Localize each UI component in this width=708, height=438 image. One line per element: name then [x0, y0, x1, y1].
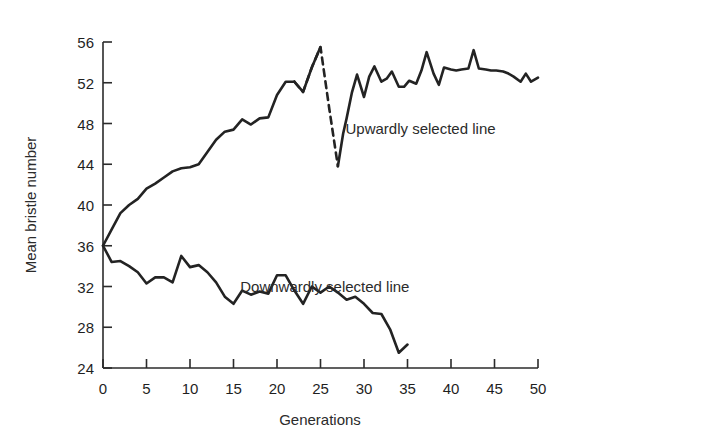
y-tick-label: 48 [77, 116, 94, 133]
y-tick-label: 56 [77, 34, 94, 51]
y-tick-label: 52 [77, 75, 94, 92]
y-tick-label: 28 [77, 319, 94, 336]
series-line [103, 246, 408, 353]
x-tick-label: 50 [530, 380, 547, 397]
y-axis-ticks: 242832364044485256 [77, 34, 112, 377]
chart-figure: 242832364044485256 05101520253035404550 … [0, 0, 708, 438]
y-tick-label: 40 [77, 197, 94, 214]
series-line [294, 47, 338, 166]
chart-axes [103, 42, 538, 368]
y-tick-label: 32 [77, 279, 94, 296]
x-tick-label: 0 [99, 380, 107, 397]
series-annotation-label: Downwardly selected line [240, 278, 409, 295]
y-tick-label: 36 [77, 238, 94, 255]
x-tick-label: 35 [399, 380, 416, 397]
y-tick-label: 44 [77, 156, 94, 173]
x-tick-label: 40 [443, 380, 460, 397]
y-axis-title: Mean bristle number [22, 137, 39, 274]
chart-series-group [103, 47, 538, 353]
series-line [294, 47, 320, 92]
x-tick-label: 45 [486, 380, 503, 397]
series-annotation-label: Upwardly selected line [346, 120, 496, 137]
series-line [103, 82, 294, 246]
x-axis-ticks: 05101520253035404550 [99, 359, 547, 397]
x-tick-label: 10 [182, 380, 199, 397]
x-tick-label: 15 [225, 380, 242, 397]
x-tick-label: 30 [356, 380, 373, 397]
x-tick-label: 25 [312, 380, 329, 397]
series-line [338, 50, 538, 166]
y-tick-label: 24 [77, 360, 94, 377]
x-tick-label: 5 [142, 380, 150, 397]
x-axis-title: Generations [279, 411, 361, 428]
series-annotations: Upwardly selected lineDownwardly selecte… [240, 120, 495, 295]
bristle-number-line-chart: 242832364044485256 05101520253035404550 … [0, 0, 708, 438]
x-tick-label: 20 [269, 380, 286, 397]
